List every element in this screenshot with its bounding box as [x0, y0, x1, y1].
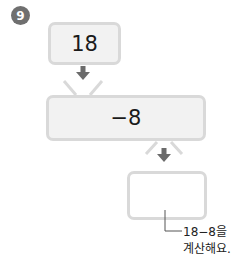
arrow-down-icon [76, 66, 90, 81]
operation-value: −8 [111, 106, 142, 130]
arrow-down-icon [157, 148, 171, 163]
funnel-lines-icon [62, 80, 104, 96]
problem-number-badge: 9 [11, 6, 30, 25]
operation-box: −8 [46, 95, 206, 141]
hint-line-2: 계산해요. [183, 241, 231, 258]
start-value-box: 18 [48, 22, 121, 65]
start-value: 18 [71, 32, 98, 56]
hint-note: 18−8을 계산해요. [183, 224, 231, 258]
callout-line [163, 210, 183, 234]
hint-line-1: 18−8을 [183, 224, 231, 241]
